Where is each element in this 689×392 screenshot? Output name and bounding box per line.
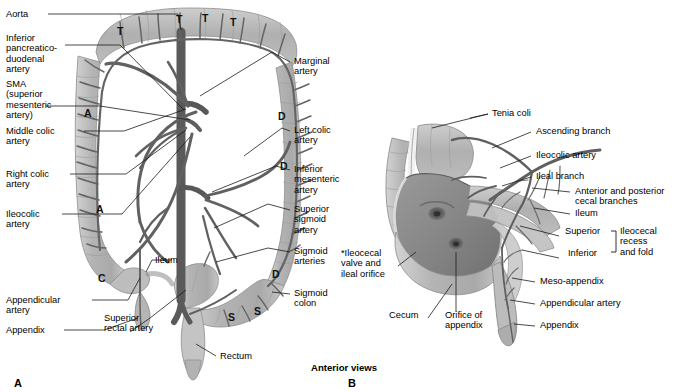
label-right-colic-artery: Right colic artery — [6, 169, 49, 190]
marker-d-3: D — [272, 268, 280, 280]
label-middle-colic-artery: Middle colic artery — [6, 126, 55, 147]
label-sigmoid-arteries: Sigmoid arteries — [294, 246, 328, 267]
label-ileocecal-recess-and-fold: Ileocecal recess and fold — [620, 226, 657, 257]
label-cecal-branches: Anterior and posterior cecal branches — [575, 186, 664, 207]
marker-d-2: D — [280, 160, 288, 172]
marker-t-3: T — [202, 12, 208, 24]
label-ileocecal-valve-ileal-orifice: *Ileocecal valve and ileal orifice — [341, 248, 385, 279]
marker-s-2: S — [254, 305, 261, 317]
anatomy-figure: Aorta Inferior pancreatico- duodenal art… — [0, 0, 689, 392]
marker-a-2: A — [96, 203, 104, 215]
label-appendix-a: Appendix — [6, 325, 45, 335]
label-ileocolic-artery-a: Ileocolic artery — [6, 209, 40, 230]
marker-a-1: A — [84, 107, 92, 119]
label-inferior-pancreaticoduodenal: Inferior pancreatico- duodenal artery — [6, 33, 57, 75]
figure-caption: Anterior views — [311, 362, 377, 373]
label-ileal-branch: Ileal branch — [536, 171, 584, 181]
ileocecal-bracket-icon — [611, 231, 616, 252]
label-tenia-coli: Tenia coli — [492, 108, 531, 118]
label-sma: SMA (superior mesenteric artery) — [6, 79, 51, 121]
label-aorta: Aorta — [6, 9, 28, 19]
label-sigmoid-colon: Sigmoid colon — [294, 288, 328, 309]
label-ascending-branch: Ascending branch — [536, 126, 610, 136]
label-ileocecal-recess-superior: Superior — [565, 226, 600, 236]
label-left-colic-artery: Left colic artery — [294, 125, 331, 146]
label-appendix-b: Appendix — [540, 320, 579, 330]
label-cecum: Cecum — [389, 310, 418, 320]
panel-letter-b: B — [348, 377, 356, 389]
marker-d-1: D — [278, 110, 286, 122]
label-appendicular-artery-b: Appendicular artery — [540, 298, 621, 308]
label-orifice-of-appendix: Orifice of appendix — [445, 310, 483, 331]
label-superior-rectal-artery: Superior rectal artery — [104, 313, 153, 334]
label-inferior-mesenteric-artery: Inferior mesenteric artery — [294, 164, 339, 195]
label-ileum-a: Ileum — [155, 255, 178, 265]
label-appendicular-artery-a: Appendicular artery — [6, 295, 60, 316]
label-rectum: Rectum — [220, 351, 252, 361]
panel-letter-a: A — [14, 377, 22, 389]
label-marginal-artery: Marginal artery — [294, 56, 330, 77]
label-ileocecal-recess-inferior: Inferior — [568, 248, 597, 258]
marker-c: C — [98, 272, 106, 284]
label-meso-appendix: Meso-appendix — [540, 276, 604, 286]
marker-t-4: T — [230, 16, 236, 28]
marker-t-2: T — [176, 13, 182, 25]
marker-t-1: T — [117, 25, 123, 37]
label-ileocolic-artery-b: Ileocolic artery — [536, 150, 596, 160]
marker-s-1: S — [228, 311, 235, 323]
label-superior-sigmoid-artery: Superior sigmoid artery — [294, 204, 329, 235]
label-ileum-b: Ileum — [575, 208, 598, 218]
